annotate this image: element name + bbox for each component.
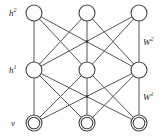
- dbm-diagram: h2 h1 v W2 W1: [0, 0, 163, 137]
- crossing-dot: [86, 95, 88, 97]
- node-h1: [26, 62, 42, 78]
- node-h1: [131, 62, 147, 78]
- node-h2: [26, 5, 42, 21]
- node-h1: [79, 62, 95, 78]
- layer-label-h1: h1: [9, 64, 17, 75]
- node-h2: [131, 5, 147, 21]
- layer-label-v: v: [11, 118, 15, 128]
- weight-label-w2: W2: [143, 36, 154, 47]
- node-v: [131, 115, 147, 131]
- node-v: [79, 115, 95, 131]
- node-v: [26, 115, 42, 131]
- weight-label-w1: W1: [143, 91, 154, 102]
- layer-label-h2: h2: [9, 7, 17, 18]
- crossing-dot: [86, 40, 88, 42]
- node-h2: [79, 5, 95, 21]
